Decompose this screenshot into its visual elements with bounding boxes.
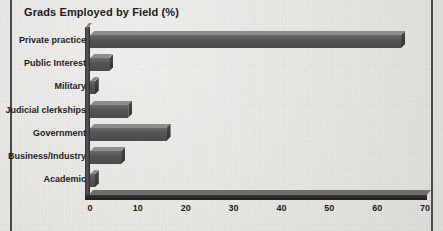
bar <box>90 124 167 137</box>
bar <box>90 31 401 44</box>
category-label: Public Interest <box>24 58 86 68</box>
category-label: Academic <box>43 174 86 184</box>
plot-area: Private practicePublic InterestMilitaryJ… <box>0 0 443 231</box>
bar-front-face <box>90 58 109 71</box>
y-axis-cap <box>85 23 92 28</box>
bar-front-face <box>90 174 95 187</box>
bar <box>90 77 95 90</box>
x-axis-tick-label: 40 <box>276 203 286 213</box>
category-label: Private practice <box>19 35 86 45</box>
bar <box>90 54 109 67</box>
bar-front-face <box>90 105 128 118</box>
bar-front-face <box>90 81 95 94</box>
chart-figure: Grads Employed by Field (%) Private prac… <box>0 0 443 231</box>
bar-front-face <box>90 151 121 164</box>
x-axis-tick-label: 50 <box>324 203 334 213</box>
bar <box>90 101 128 114</box>
x-axis-tick-label: 0 <box>87 203 92 213</box>
x-axis-top-face <box>89 190 431 195</box>
bar-front-face <box>90 35 401 48</box>
category-label: Government <box>33 128 86 138</box>
x-axis-tick-label: 30 <box>229 203 239 213</box>
bar-front-face <box>90 128 167 141</box>
x-axis-tick-label: 70 <box>420 203 430 213</box>
category-label: Judicial clerkships <box>5 105 86 115</box>
bar <box>90 170 95 183</box>
bar <box>90 147 121 160</box>
x-axis-tick-label: 60 <box>372 203 382 213</box>
category-label: Military <box>54 81 86 91</box>
category-label: Business/Industry <box>8 151 86 161</box>
x-axis-tick-label: 10 <box>133 203 143 213</box>
x-axis-tick-label: 20 <box>181 203 191 213</box>
